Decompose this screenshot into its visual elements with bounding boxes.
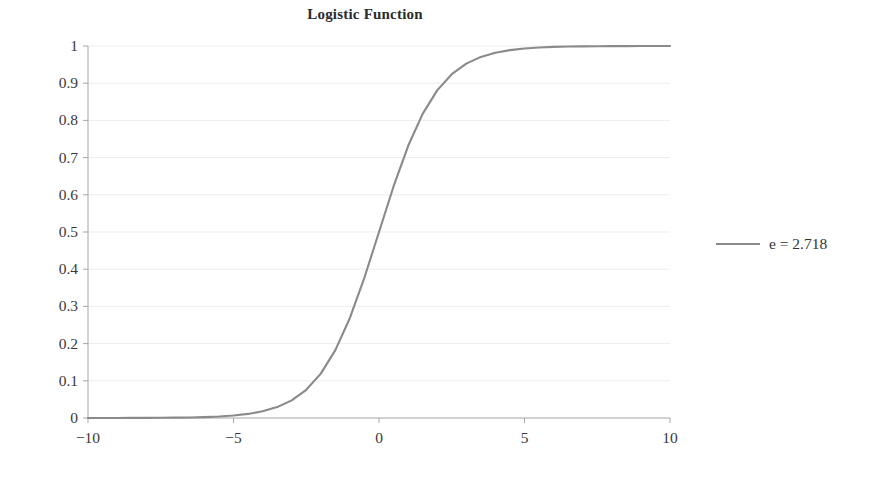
legend-entry-label: e = 2.718 — [769, 236, 827, 252]
logistic-function-chart: Logistic Function 00.10.20.30.40.50.60.7… — [0, 0, 892, 478]
y-tick-label: 0 — [70, 410, 78, 426]
x-tick-label: −5 — [194, 430, 274, 446]
x-tick-label: 5 — [485, 430, 565, 446]
gridlines — [88, 46, 670, 381]
tick-marks — [83, 46, 670, 423]
legend-line-swatch — [716, 243, 760, 245]
y-tick-label: 1 — [70, 38, 78, 54]
x-tick-label: −10 — [48, 430, 128, 446]
y-tick-label: 0.5 — [59, 224, 78, 240]
y-tick-label: 0.1 — [59, 373, 78, 389]
y-tick-label: 0.6 — [59, 187, 78, 203]
y-tick-label: 0.3 — [59, 298, 78, 314]
x-tick-label: 0 — [339, 430, 419, 446]
x-tick-label: 10 — [630, 430, 710, 446]
y-tick-label: 0.7 — [59, 150, 78, 166]
y-tick-label: 0.2 — [59, 336, 78, 352]
chart-legend: e = 2.718 — [716, 236, 827, 252]
y-tick-label: 0.4 — [59, 261, 78, 277]
y-tick-label: 0.8 — [59, 112, 78, 128]
y-tick-label: 0.9 — [59, 75, 78, 91]
